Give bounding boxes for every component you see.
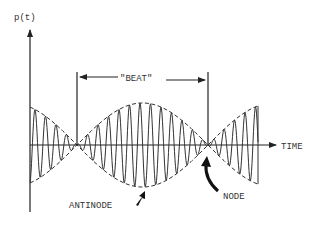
antinode-label: ANTINODE	[69, 201, 112, 211]
x-axis-label: TIME	[281, 142, 303, 152]
node-arrow-curve	[206, 164, 218, 191]
beat-diagram: p(t) TIME "BEAT" ANTINODE NODE	[0, 0, 324, 228]
node-arrow-icon	[201, 156, 211, 167]
antinode-arrow-icon	[136, 191, 145, 206]
node-label: NODE	[223, 192, 245, 202]
beat-label: "BEAT"	[120, 74, 152, 84]
y-axis-label: p(t)	[14, 13, 36, 23]
